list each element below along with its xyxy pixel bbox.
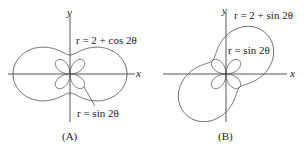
panel-a-caption: (A) — [62, 131, 77, 142]
panel-a-outer-label: r = 2 + cos 2θ — [76, 35, 137, 46]
panel-a-x-label: x — [136, 68, 141, 79]
panel-a-axes — [8, 15, 135, 122]
panel-a-inner-label: r = sin 2θ — [77, 108, 119, 119]
panel-a-pointer-line — [84, 87, 95, 106]
panel-b-x-label: x — [290, 68, 295, 79]
panel-a-y-label: y — [67, 7, 72, 18]
diagram-canvas — [0, 0, 304, 150]
panel-b-outer-label: r = 2 + sin 2θ — [234, 10, 293, 21]
panel-b-caption: (B) — [218, 131, 233, 142]
panel-b-y-label: y — [222, 5, 227, 16]
panel-b-inner-label: r = sin 2θ — [228, 45, 270, 56]
